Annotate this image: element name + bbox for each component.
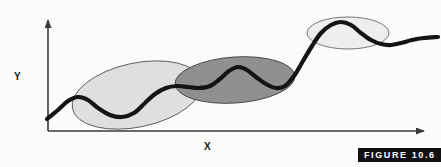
x-axis-label: X: [204, 142, 211, 152]
figure-container: Y X FIGURE 10.6: [0, 0, 441, 167]
y-axis-label: Y: [14, 72, 21, 82]
cluster-ellipse-middle: [174, 53, 297, 107]
figure-caption: FIGURE 10.6: [358, 148, 441, 162]
cluster-regions-group: [66, 17, 389, 140]
figure-plot-area: [0, 0, 441, 167]
